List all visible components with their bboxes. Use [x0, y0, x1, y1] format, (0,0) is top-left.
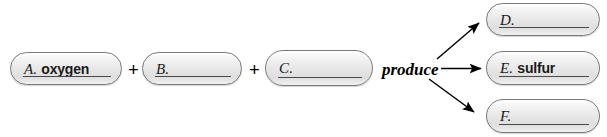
reactant-a-letter: A. — [24, 60, 37, 77]
plus-sign-2: + — [249, 60, 260, 79]
reactant-c-content: C. — [279, 60, 361, 77]
product-blank-f[interactable]: F. — [486, 99, 600, 133]
produce-label: produce — [382, 61, 439, 78]
arrow-to-f-icon — [429, 79, 474, 112]
reactant-a-answer: oxygen — [41, 60, 89, 76]
reactant-blank-c[interactable]: C. — [265, 50, 373, 86]
reactant-a-writing-line — [23, 76, 111, 77]
product-d-content: D. — [500, 11, 588, 28]
plus-sign-1: + — [128, 60, 139, 79]
product-blank-e[interactable]: E. sulfur — [486, 51, 600, 85]
product-f-writing-line — [499, 124, 589, 125]
reactant-a-content: A. oxygen — [24, 60, 110, 77]
product-e-content: E. sulfur — [500, 60, 588, 77]
reactant-blank-b[interactable]: B. — [142, 52, 242, 85]
reactant-b-writing-line — [155, 76, 231, 77]
product-f-letter: F. — [500, 108, 511, 125]
product-e-letter: E. — [500, 60, 513, 77]
product-blank-d[interactable]: D. — [486, 3, 600, 36]
product-d-writing-line — [499, 27, 589, 28]
product-e-answer: sulfur — [517, 60, 555, 76]
product-f-content: F. — [500, 108, 588, 125]
reactant-blank-a[interactable]: A. oxygen — [10, 52, 122, 85]
product-e-writing-line — [499, 76, 589, 77]
reactant-c-writing-line — [278, 77, 362, 78]
arrow-to-d-icon — [437, 23, 479, 59]
reactant-c-letter: C. — [279, 60, 293, 77]
product-d-letter: D. — [500, 11, 515, 28]
reactant-b-content: B. — [156, 60, 230, 77]
reactant-b-letter: B. — [156, 60, 169, 77]
equation-diagram: A. oxygen + B. + C. produce — [0, 0, 607, 137]
